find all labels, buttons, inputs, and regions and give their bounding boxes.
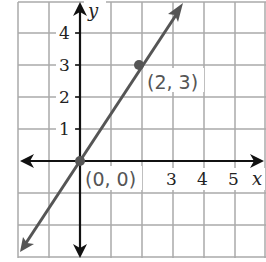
- grid: [18, 2, 266, 258]
- x-tick-4: 4: [197, 169, 208, 189]
- x-tick-5: 5: [228, 169, 239, 189]
- x-tick-3: 3: [166, 169, 177, 189]
- x-axis-label: x: [252, 168, 262, 189]
- origin-point-label: (0, 0): [85, 168, 136, 190]
- y-tick-3: 3: [59, 55, 70, 75]
- y-tick-1: 1: [59, 119, 70, 139]
- line-up-arrow-icon: [168, 3, 183, 22]
- second-point-label: (2, 3): [147, 71, 198, 93]
- y-tick-4: 4: [59, 23, 70, 43]
- y-axis-label: y: [87, 0, 99, 21]
- point-2-3: [134, 60, 144, 70]
- coordinate-plane: y 4 3 2 1 3 4 5 x (0, 0) (2, 3): [0, 0, 266, 262]
- plotted-line: [20, 3, 183, 252]
- y-tick-2: 2: [59, 87, 70, 107]
- point-origin: [75, 156, 85, 166]
